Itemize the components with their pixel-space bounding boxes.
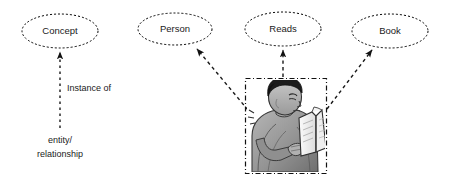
reads-label: Reads (269, 23, 297, 34)
person-reading-illustration (247, 77, 326, 172)
node-person[interactable]: Person (138, 13, 212, 45)
entity-relationship-label-group: entity/ relationship (37, 135, 83, 159)
figure-person-line (197, 49, 248, 110)
edge-entity-to-concept[interactable]: Instance of (60, 52, 112, 128)
entity-label-line1: entity/ (48, 135, 73, 145)
figure-book-line (327, 50, 372, 109)
node-book[interactable]: Book (352, 14, 428, 48)
edge-figure-to-book[interactable] (327, 50, 372, 109)
book-label: Book (379, 25, 401, 36)
node-reads[interactable]: Reads (245, 12, 321, 46)
node-concept[interactable]: Concept (22, 14, 98, 48)
concept-label: Concept (42, 25, 78, 36)
person-label: Person (160, 23, 190, 34)
entity-label-line2: relationship (37, 149, 83, 159)
diagram-canvas: Concept Person Reads Book Instance of (0, 0, 451, 183)
instance-of-label: Instance of (67, 83, 112, 93)
diagram-svg: Concept Person Reads Book Instance of (0, 0, 451, 183)
edge-figure-to-person[interactable] (197, 49, 248, 110)
person-reading-figure[interactable] (246, 77, 327, 174)
